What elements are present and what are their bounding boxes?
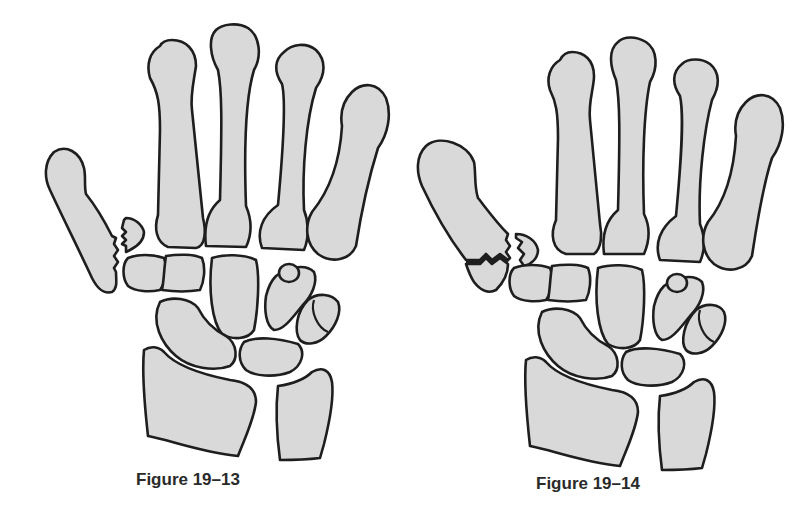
ulna (277, 369, 333, 460)
trapezium (124, 255, 167, 291)
figure-19-13-diagram (0, 0, 812, 506)
hand-skeleton-left (46, 24, 389, 460)
metacarpal-2 (148, 40, 204, 248)
metacarpal-5 (307, 85, 389, 259)
metacarpal-5 (703, 95, 783, 269)
hamate-hook (667, 274, 687, 292)
lunate (622, 348, 684, 385)
metacarpal-3 (205, 24, 258, 247)
trapezoid (548, 265, 590, 302)
hand-skeleton-right (418, 38, 783, 471)
fracture-fragment (122, 218, 144, 252)
ulna (659, 379, 715, 470)
figure-caption-19-13: Figure 19–13 (136, 470, 240, 490)
capitate (596, 265, 644, 348)
capitate (210, 255, 258, 338)
metacarpal-1-fractured (418, 141, 510, 260)
fracture-fragment-dorsal (516, 234, 538, 266)
lunate (240, 338, 302, 375)
metacarpal-2 (548, 52, 601, 254)
trapezium (510, 265, 553, 301)
trapezoid (162, 255, 204, 292)
metacarpal-1-fractured (46, 149, 118, 293)
metacarpal-3 (603, 38, 655, 255)
figure-caption-19-14: Figure 19–14 (536, 474, 640, 494)
hamate-hook (279, 264, 299, 282)
